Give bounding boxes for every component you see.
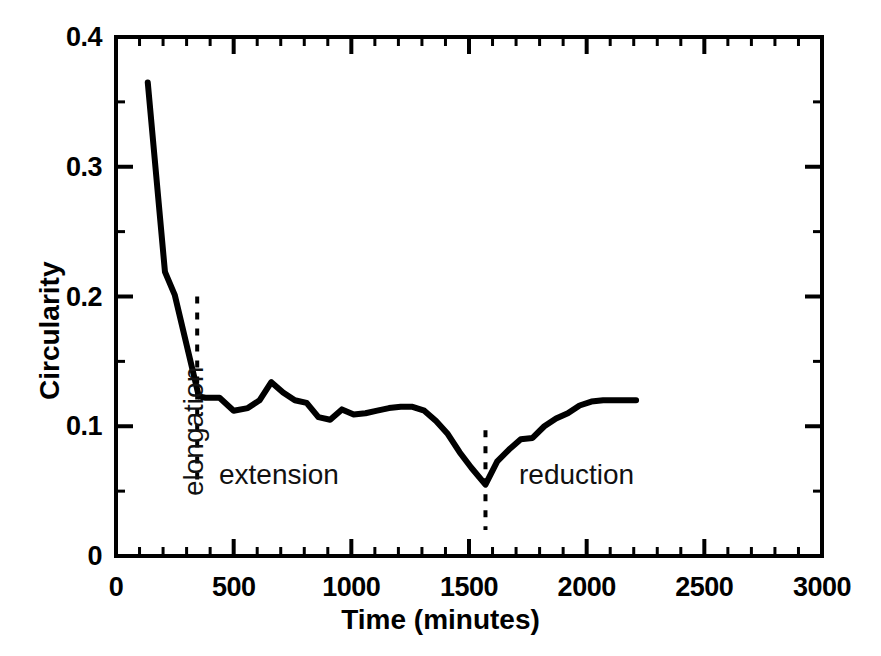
chart-figure: 050010001500200025003000 00.10.20.30.4 T…: [0, 0, 881, 656]
x-tick-label: 500: [212, 572, 256, 603]
y-tick-label: 0.2: [66, 281, 102, 312]
x-tick-label: 1500: [440, 572, 498, 603]
annotation-elongation: elongation: [178, 367, 210, 496]
chart-plot-area: [0, 0, 881, 656]
y-tick-label: 0.4: [66, 22, 102, 53]
x-tick-label: 2500: [675, 572, 733, 603]
data-series-group: [148, 82, 636, 484]
y-tick-label: 0: [87, 541, 102, 572]
annotation-reduction: reduction: [519, 459, 634, 491]
x-axis-title: Time (minutes): [0, 604, 881, 636]
y-tick-label: 0.1: [66, 411, 102, 442]
y-axis-title: Circularity: [34, 262, 66, 401]
x-tick-label: 1000: [322, 572, 380, 603]
x-tick-label: 2000: [558, 572, 616, 603]
annotation-extension: extension: [219, 459, 339, 491]
y-tick-label: 0.3: [66, 151, 102, 182]
x-tick-label: 3000: [793, 572, 851, 603]
x-tick-label: 0: [109, 572, 124, 603]
